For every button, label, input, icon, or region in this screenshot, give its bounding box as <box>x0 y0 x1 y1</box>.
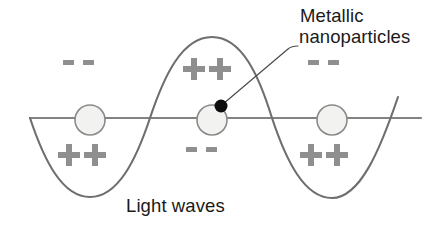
minus-glyph <box>308 60 319 65</box>
callout-label-line1: Metallic <box>300 5 364 26</box>
plus-glyph <box>300 144 322 166</box>
charge-label-bottom-center: - - <box>186 147 226 152</box>
minus-glyph <box>63 60 74 65</box>
charge-label-bottom-right: ++ <box>300 144 352 166</box>
plus-glyph <box>58 144 80 166</box>
plus-glyph <box>183 58 205 80</box>
nanoparticle-light-wave-diagram: - - ++ ++ - - - - ++ Metallic nanopartic… <box>0 0 442 229</box>
charge-label-top-right: - - <box>308 60 348 65</box>
callout-label-metallic-nanoparticles: Metallic nanoparticles <box>300 6 410 47</box>
minus-glyph <box>328 60 339 65</box>
caption-light-waves: Light waves <box>126 196 225 217</box>
plus-glyph <box>209 58 231 80</box>
plus-glyph <box>326 144 348 166</box>
minus-glyph <box>186 147 197 152</box>
charge-label-bottom-left: ++ <box>58 144 110 166</box>
callout-label-line2: nanoparticles <box>299 27 410 48</box>
charge-label-top-center: ++ <box>183 58 235 80</box>
plus-glyph <box>84 144 106 166</box>
charge-label-top-left: - - <box>63 60 103 65</box>
nanoparticle-marker-dot <box>215 100 228 113</box>
minus-glyph <box>206 147 217 152</box>
nanoparticle-left <box>75 105 105 135</box>
nanoparticle-right <box>317 105 347 135</box>
minus-glyph <box>83 60 94 65</box>
